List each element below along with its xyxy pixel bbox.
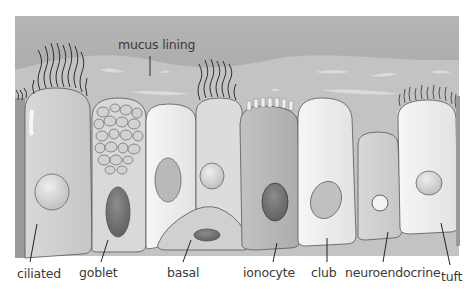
club-cell bbox=[298, 98, 356, 246]
tuft-cell bbox=[398, 85, 458, 234]
goblet-cell bbox=[92, 98, 146, 252]
ciliated-nucleus bbox=[35, 174, 69, 210]
airway-epithelium-diagram bbox=[0, 0, 473, 293]
label-ionocyte: ionocyte bbox=[243, 265, 295, 280]
label-neuroendocrine: neuroendocrine bbox=[345, 265, 441, 280]
partial-cell-right bbox=[456, 96, 460, 246]
label-club: club bbox=[311, 265, 336, 280]
ionocyte-cell bbox=[240, 98, 300, 250]
goblet-nucleus bbox=[106, 187, 130, 237]
neuroendocrine-cell bbox=[358, 132, 402, 240]
label-mucus-lining: mucus lining bbox=[118, 37, 195, 52]
label-basal: basal bbox=[167, 265, 199, 280]
partial-cell-left bbox=[15, 98, 25, 258]
label-goblet: goblet bbox=[79, 265, 117, 280]
label-tuft: tuft bbox=[441, 269, 462, 284]
label-ciliated: ciliated bbox=[17, 266, 61, 281]
